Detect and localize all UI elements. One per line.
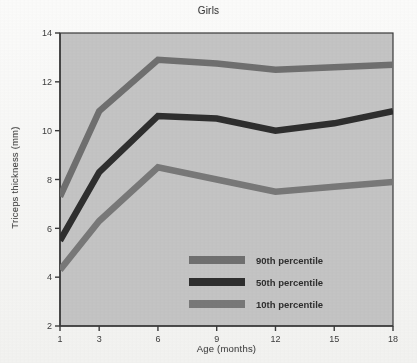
y-tick-label: 8	[47, 175, 52, 185]
x-tick-label: 1	[57, 334, 62, 344]
legend-swatch	[189, 278, 245, 286]
legend-label: 90th percentile	[256, 255, 323, 266]
x-tick-label: 15	[329, 334, 339, 344]
legend-swatch	[189, 300, 245, 308]
y-tick-label: 6	[47, 224, 52, 234]
legend-label: 50th percentile	[256, 277, 323, 288]
x-tick-label: 9	[214, 334, 219, 344]
y-axis-ticks: 2468101214	[42, 28, 60, 331]
plot-area: 2468101214 1369121518 90th percentile50t…	[0, 0, 417, 363]
legend-swatch	[189, 256, 245, 264]
y-tick-label: 10	[42, 126, 52, 136]
chart-legend: 90th percentile50th percentile10th perce…	[189, 255, 323, 310]
legend-label: 10th percentile	[256, 299, 323, 310]
x-tick-label: 3	[97, 334, 102, 344]
chart-figure: Girls Triceps thickness (mm) Age (months…	[0, 0, 417, 363]
x-tick-label: 12	[270, 334, 280, 344]
y-tick-label: 2	[47, 321, 52, 331]
x-tick-label: 6	[155, 334, 160, 344]
y-tick-label: 12	[42, 77, 52, 87]
x-tick-label: 18	[388, 334, 398, 344]
y-tick-label: 4	[47, 272, 52, 282]
y-tick-label: 14	[42, 28, 52, 38]
x-axis-ticks: 1369121518	[57, 326, 398, 344]
